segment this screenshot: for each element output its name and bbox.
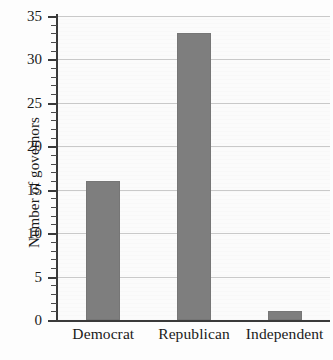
y-axis-minor-tick: [51, 311, 57, 312]
y-axis-minor-tick: [51, 224, 57, 225]
y-axis-minor-tick: [51, 42, 57, 43]
y-axis-minor-tick: [51, 285, 57, 286]
y-axis-minor-tick: [51, 68, 57, 69]
y-axis-minor-tick: [51, 216, 57, 217]
y-axis-tick: [48, 59, 57, 61]
y-axis-tick-label: 35: [2, 9, 42, 24]
x-axis-category-label: Democrat: [58, 325, 149, 343]
y-axis-tick-label: 20: [2, 139, 42, 154]
y-axis-tick: [48, 146, 57, 148]
plot-area: [58, 16, 330, 320]
bar: [86, 181, 120, 320]
y-axis-minor-tick: [51, 172, 57, 173]
y-axis-tick-label: 5: [2, 270, 42, 285]
x-axis-line: [56, 320, 330, 322]
y-axis-minor-tick: [51, 198, 57, 199]
y-axis-minor-tick: [51, 129, 57, 130]
y-axis-minor-tick: [51, 51, 57, 52]
y-axis-minor-tick: [51, 251, 57, 252]
y-axis-minor-tick: [51, 259, 57, 260]
y-axis-minor-tick: [51, 155, 57, 156]
y-axis-minor-tick: [51, 33, 57, 34]
y-axis-minor-tick: [51, 242, 57, 243]
y-axis-tick-label: 0: [2, 313, 42, 328]
y-axis-minor-tick: [51, 303, 57, 304]
y-axis-minor-tick: [51, 85, 57, 86]
y-axis-minor-tick: [51, 294, 57, 295]
x-axis-category-label: Republican: [149, 325, 240, 343]
y-axis-tick: [48, 103, 57, 105]
y-axis-tick: [48, 16, 57, 18]
y-axis-minor-tick: [51, 181, 57, 182]
bar: [268, 311, 302, 320]
y-axis-tick: [48, 190, 57, 192]
y-axis-minor-tick: [51, 268, 57, 269]
x-axis-category-label: Independent: [239, 325, 330, 343]
y-axis-tick: [48, 320, 57, 322]
y-axis-tick-label: 10: [2, 226, 42, 241]
y-axis-tick: [48, 277, 57, 279]
y-axis-minor-tick: [51, 77, 57, 78]
y-axis-minor-tick: [51, 25, 57, 26]
y-axis-minor-tick: [51, 138, 57, 139]
y-axis-tick: [48, 233, 57, 235]
y-axis-minor-tick: [51, 94, 57, 95]
y-axis-minor-tick: [51, 207, 57, 208]
bar: [177, 33, 211, 320]
y-axis-minor-tick: [51, 112, 57, 113]
y-axis-tick-label: 15: [2, 183, 42, 198]
bar-chart-figure: Number of governors 05101520253035Democr…: [0, 0, 333, 360]
y-axis-minor-tick: [51, 164, 57, 165]
y-axis-tick-label: 30: [2, 52, 42, 67]
y-axis-tick-label: 25: [2, 96, 42, 111]
gridline: [58, 16, 330, 17]
y-axis-minor-tick: [51, 120, 57, 121]
